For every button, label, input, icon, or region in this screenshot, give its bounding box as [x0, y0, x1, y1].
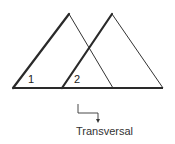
triangles-figure — [0, 0, 175, 144]
parallel-line-1 — [13, 14, 69, 88]
parallel-line-2 — [62, 14, 112, 88]
angle-label-2: 2 — [74, 74, 80, 85]
pointer-arrow — [78, 104, 98, 120]
arrowhead-icon — [96, 119, 100, 123]
transversal-caption: Transversal — [76, 126, 133, 137]
right-triangle-right-side — [112, 14, 163, 88]
angle-label-1: 1 — [28, 74, 34, 85]
